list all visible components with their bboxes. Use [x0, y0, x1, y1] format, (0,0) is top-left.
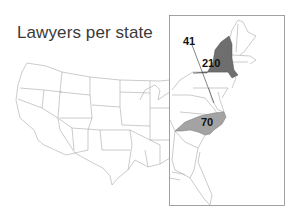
- label-north-carolina: 70: [201, 116, 213, 128]
- label-delaware: 41: [183, 35, 195, 47]
- label-new-york: 210: [202, 57, 220, 69]
- labels-layer: 41 210 70: [0, 0, 293, 214]
